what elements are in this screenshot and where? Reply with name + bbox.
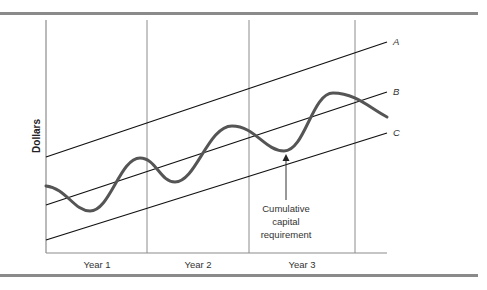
- line-label-a: A: [392, 36, 399, 47]
- y-axis-label: Dollars: [31, 119, 42, 153]
- line-label-c: C: [393, 127, 400, 138]
- x-label-year-1: Year 1: [83, 259, 110, 270]
- trend-line-a: [46, 42, 387, 157]
- capital-requirement-diagram: A B C Cumulative capital requirement Yea…: [0, 0, 487, 290]
- line-label-b: B: [393, 86, 400, 97]
- annotation-arrowhead-icon: [283, 154, 290, 161]
- cumulative-capital-curve: [46, 93, 387, 211]
- annotation-line-3: requirement: [261, 229, 312, 240]
- bottom-border-bar: [0, 274, 478, 277]
- annotation-line-1: Cumulative: [262, 203, 310, 214]
- top-border-bar: [0, 12, 478, 15]
- x-label-year-2: Year 2: [184, 259, 211, 270]
- annotation-line-2: capital: [272, 216, 299, 227]
- x-label-year-3: Year 3: [288, 259, 315, 270]
